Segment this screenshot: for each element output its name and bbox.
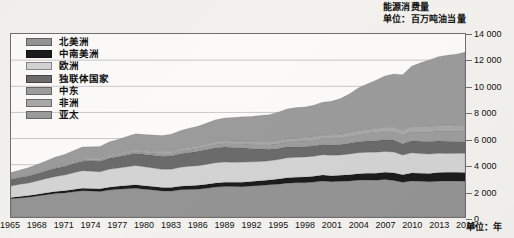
chart-title-block: 能源消费量 单位：百万吨油当量 [383, 1, 511, 25]
x-axis-tick-label: 1965 [0, 220, 20, 230]
y-axis-tick-mark [466, 166, 472, 167]
legend-item[interactable]: 北美洲 [26, 36, 109, 48]
legend-swatch-icon [26, 50, 52, 58]
y-axis-tick-mark [466, 193, 472, 194]
legend-item[interactable]: 中东 [26, 85, 109, 97]
y-axis-tick-label: 4 000 [474, 161, 497, 171]
x-axis-tick-label: 1986 [188, 220, 208, 230]
y-axis-tick-mark [466, 34, 472, 35]
x-axis-tick-label: 1995 [268, 220, 288, 230]
x-axis-tick-label: 1974 [80, 220, 100, 230]
legend-item-label: 非洲 [59, 98, 79, 108]
x-axis-tick-label: 1977 [107, 220, 127, 230]
legend-swatch-icon [26, 75, 52, 83]
legend-item-label: 中南美洲 [59, 49, 99, 59]
x-axis-tick-label: 1980 [134, 220, 154, 230]
legend-swatch-icon [26, 38, 52, 46]
chart-legend: 北美洲中南美洲欧洲独联体国家中东非洲亚太 [22, 34, 115, 124]
y-axis-tick-label: 14 000 [474, 29, 502, 39]
legend-item[interactable]: 亚太 [26, 109, 109, 121]
y-axis-tick-mark [466, 140, 472, 141]
legend-item[interactable]: 中南美洲 [26, 48, 109, 60]
legend-swatch-icon [26, 111, 52, 119]
y-axis-tick-label: 8 000 [474, 108, 497, 118]
legend-swatch-icon [26, 62, 52, 70]
legend-item-label: 北美洲 [59, 37, 89, 47]
y-axis-tick-label: 10 000 [474, 82, 502, 92]
y-axis: 02 0004 0006 0008 00010 00012 00014 000 [466, 33, 514, 219]
y-axis-tick-mark [466, 60, 472, 61]
y-axis-tick-label: 2 000 [474, 188, 497, 198]
x-axis-tick-label: 1992 [241, 220, 261, 230]
legend-item[interactable]: 欧洲 [26, 60, 109, 72]
legend-swatch-icon [26, 99, 52, 107]
x-axis-tick-label: 1968 [27, 220, 47, 230]
legend-item[interactable]: 非洲 [26, 97, 109, 109]
x-axis: 单位：年 19651968197119741977198019831986198… [0, 220, 514, 236]
y-axis-tick-mark [466, 113, 472, 114]
legend-item[interactable]: 独联体国家 [26, 73, 109, 85]
x-axis-tick-label: 1971 [54, 220, 74, 230]
x-axis-tick-label: 2016 [456, 220, 476, 230]
x-axis-tick-label: 1983 [161, 220, 181, 230]
x-axis-tick-label: 2004 [349, 220, 369, 230]
legend-swatch-icon [26, 87, 52, 95]
y-axis-tick-mark [466, 87, 472, 88]
x-axis-tick-label: 2013 [429, 220, 449, 230]
legend-item-label: 亚太 [59, 110, 79, 120]
energy-consumption-chart: 能源消费量 单位：百万吨油当量 北美洲中南美洲欧洲独联体国家中东非洲亚太 02 … [0, 0, 514, 238]
x-axis-tick-label: 1989 [215, 220, 235, 230]
x-axis-tick-label: 1998 [295, 220, 315, 230]
chart-unit-subtitle: 单位：百万吨油当量 [383, 13, 511, 25]
legend-item-label: 欧洲 [59, 61, 79, 71]
legend-item-label: 独联体国家 [59, 74, 109, 84]
legend-item-label: 中东 [59, 86, 79, 96]
x-axis-tick-label: 2010 [402, 220, 422, 230]
x-axis-tick-label: 2007 [376, 220, 396, 230]
x-axis-tick-label: 2001 [322, 220, 342, 230]
chart-title: 能源消费量 [383, 1, 511, 13]
y-axis-tick-label: 12 000 [474, 55, 502, 65]
y-axis-tick-label: 6 000 [474, 135, 497, 145]
